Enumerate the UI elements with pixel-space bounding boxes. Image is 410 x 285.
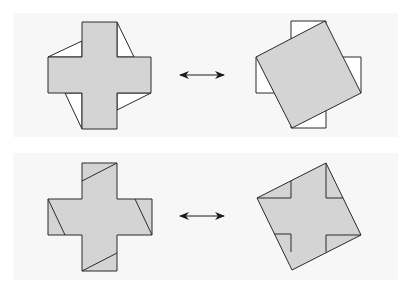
triangle-bottom-left	[65, 93, 82, 129]
tilted-square-cross	[257, 163, 361, 270]
bottom-left-cross	[48, 163, 152, 271]
top-left-cross	[48, 22, 151, 129]
triangle-top-right	[117, 22, 134, 57]
triangle-top-left	[48, 41, 82, 57]
diagram-canvas	[0, 0, 410, 285]
greek-cross-cut	[48, 163, 152, 271]
bottom-right-square	[257, 163, 361, 270]
greek-cross	[48, 22, 151, 129]
top-right-square	[256, 21, 361, 128]
tilted-square	[256, 21, 361, 128]
triangle-bottom-right	[117, 93, 151, 110]
